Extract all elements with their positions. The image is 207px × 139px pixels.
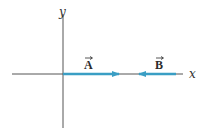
y-axis-label: y — [58, 5, 66, 19]
vector-a-text: A — [84, 58, 93, 72]
vector-b-text: B — [155, 58, 163, 72]
vector-a-label: A — [84, 57, 93, 73]
x-axis-label: x — [189, 67, 196, 81]
vector-diagram: x y A B — [0, 0, 207, 139]
vector-b-label: B — [155, 57, 164, 73]
